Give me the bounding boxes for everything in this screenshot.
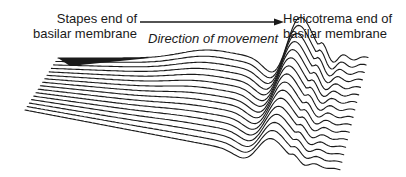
membrane-line	[27, 107, 342, 163]
membrane-line	[58, 17, 368, 72]
membrane-wave-lines	[25, 17, 368, 170]
membrane-line	[43, 74, 355, 112]
basilar-membrane-wave-diagram	[0, 0, 406, 177]
